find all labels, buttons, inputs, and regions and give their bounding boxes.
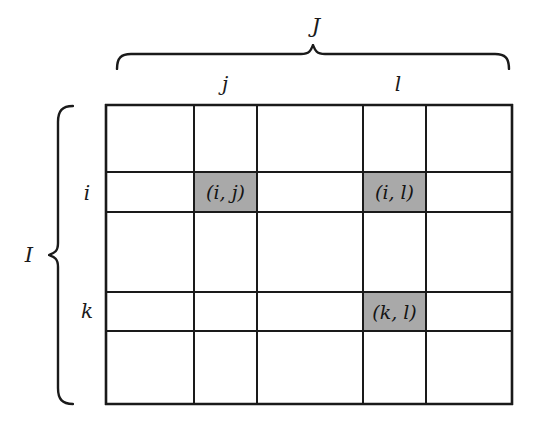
row-label-k: k — [74, 300, 100, 322]
vertical-curly-brace-icon — [48, 104, 74, 406]
horizontal-curly-brace-icon — [115, 44, 511, 70]
matrix-grid: (i, j)(i, l)(k, l) — [105, 104, 513, 405]
row-label-i: i — [74, 182, 100, 204]
left-brace-label-I: I — [10, 243, 48, 267]
matrix-figure: J I jl ik (i, j)(i, l)(k, l) — [0, 0, 534, 427]
top-brace-label-J: J — [296, 14, 336, 38]
grid-lines — [105, 104, 513, 405]
column-label-j: j — [205, 72, 245, 96]
column-label-l: l — [378, 72, 418, 96]
